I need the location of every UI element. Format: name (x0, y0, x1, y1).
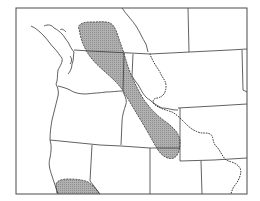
alberta-saskatchewan-border (188, 8, 189, 52)
oregon-idaho-border (121, 92, 126, 145)
oregon-coastline (50, 96, 58, 140)
east-province-border (242, 50, 247, 92)
range-map (0, 0, 260, 201)
sierra-nevada-range (56, 179, 101, 198)
washington-oregon-border (58, 86, 122, 94)
northern-rockies-range (79, 22, 180, 159)
puget-sound-coastline (44, 25, 74, 74)
washington-coastline (31, 26, 62, 96)
wyoming-south-border (201, 161, 202, 194)
bc-alberta-border (122, 8, 148, 52)
montana-wyoming-border (178, 104, 247, 108)
utah-wyoming-border (180, 158, 247, 161)
